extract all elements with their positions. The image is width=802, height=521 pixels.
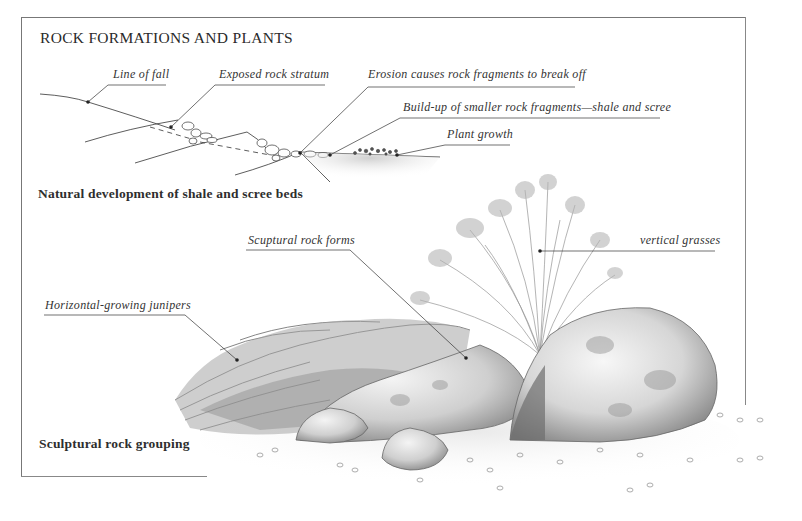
label-line-of-fall: Line of fall <box>113 67 169 82</box>
caption-rock-grouping: Sculptural rock grouping <box>39 436 190 452</box>
label-exposed-rock-stratum: Exposed rock stratum <box>219 67 329 82</box>
label-erosion: Erosion causes rock fragments to break o… <box>368 67 586 82</box>
label-scree-buildup: Build-up of smaller rock fragments—shale… <box>403 100 671 115</box>
label-sculptural-rock-forms: Scuptural rock forms <box>248 233 355 248</box>
label-horizontal-junipers: Horizontal-growing junipers <box>45 298 191 313</box>
caption-scree-beds: Natural development of shale and scree b… <box>38 186 303 202</box>
label-plant-growth: Plant growth <box>447 127 513 142</box>
label-vertical-grasses: vertical grasses <box>640 233 720 248</box>
